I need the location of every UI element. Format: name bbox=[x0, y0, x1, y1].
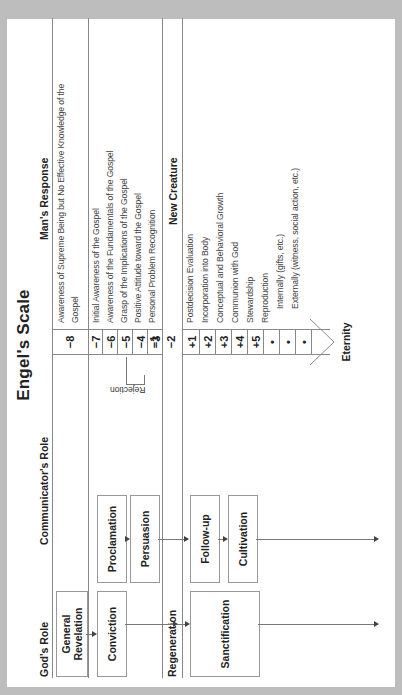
scale-num: +1 bbox=[186, 329, 198, 355]
scale-num: −7 bbox=[90, 329, 102, 355]
eternity-label: Eternity bbox=[340, 317, 352, 367]
response-plus1: Postdecision Evaluation bbox=[185, 234, 195, 323]
response-internally: Internally (gifts, etc.) bbox=[275, 234, 285, 309]
response-minus6: Awareness of the Fundamentals of the Gos… bbox=[105, 151, 115, 323]
scale-num: −1 bbox=[148, 329, 160, 355]
response-plus5: Stewardship bbox=[245, 277, 255, 323]
engel-scale-diagram-rotated: Engel's Scale God's Role Communicator's … bbox=[0, 0, 402, 695]
response-externally: Externally (witness, social action, etc.… bbox=[290, 168, 300, 309]
arrow-follow-up-to-cultivation bbox=[218, 539, 227, 540]
rejection-label: Rejection bbox=[110, 385, 145, 395]
scale-num: +3 bbox=[218, 329, 230, 355]
proclamation-box: Proclamation bbox=[97, 495, 127, 583]
diagram-title: Engel's Scale bbox=[14, 285, 34, 405]
arrow-conviction-to-regeneration bbox=[125, 624, 177, 625]
response-minus8: Awareness of Supreme Being but No Effect… bbox=[56, 84, 66, 323]
header-mans-response: Man's Response bbox=[38, 158, 50, 240]
header-communicators-role: Communicator's Role bbox=[38, 437, 50, 545]
general-revelation-box: GeneralRevelation bbox=[56, 591, 88, 677]
response-plus3: Conceptual and Behavioral Growth bbox=[215, 193, 225, 323]
scale-num: −6 bbox=[105, 329, 117, 355]
eternity-arrow-icon bbox=[308, 319, 338, 365]
scale-num: +5 bbox=[250, 329, 262, 355]
response-minus8-cont: Gospel bbox=[70, 296, 80, 323]
response-minus3: Personal Problem Recognition bbox=[147, 210, 157, 323]
regeneration-label: Regeneration bbox=[166, 610, 178, 677]
response-minus5: Grasp of the Implications of the Gospel bbox=[119, 178, 129, 323]
cultivation-box: Cultivation bbox=[228, 495, 258, 583]
response-reproduction: Reproduction bbox=[260, 273, 270, 323]
arrow-cultivation-onward bbox=[256, 539, 378, 540]
scale-num: +2 bbox=[202, 329, 214, 355]
new-creature-label: New Creature bbox=[167, 157, 179, 225]
scale-num: −4 bbox=[135, 329, 147, 355]
scale-bullet: • bbox=[266, 329, 278, 355]
scale-num: −8 bbox=[64, 329, 76, 355]
header-gods-role: God's Role bbox=[38, 622, 50, 677]
arrow-regeneration-to-sanctification bbox=[177, 624, 189, 625]
scale-num: +4 bbox=[234, 329, 246, 355]
scale-num: −2 bbox=[165, 329, 177, 355]
arrow-persuasion-to-follow-up bbox=[158, 539, 188, 540]
persuasion-box: Persuasion bbox=[130, 495, 160, 583]
response-minus4: Positive Attitude toward the Gospel bbox=[133, 193, 143, 323]
scale-num: −5 bbox=[120, 329, 132, 355]
arrow-proclamation-to-persuasion bbox=[125, 539, 129, 540]
scale-bullet: • bbox=[282, 329, 294, 355]
arrow-sanctification-onward bbox=[258, 624, 378, 625]
response-plus4: Communion with God bbox=[230, 242, 240, 323]
response-minus7: Initial Awareness of the Gospel bbox=[91, 208, 101, 323]
arrow-revelation-to-conviction bbox=[86, 634, 96, 635]
response-plus2: Incorporation into Body bbox=[200, 237, 210, 323]
conviction-box: Conviction bbox=[97, 591, 127, 677]
follow-up-box: Follow-up bbox=[190, 495, 220, 583]
sanctification-box: Sanctification bbox=[190, 591, 260, 677]
